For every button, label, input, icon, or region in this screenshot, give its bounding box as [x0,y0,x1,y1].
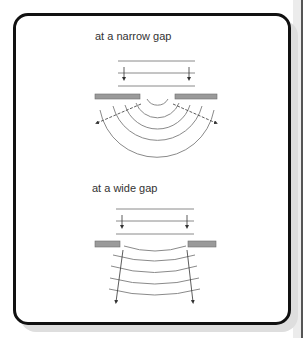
diffracted-wavefront [124,246,186,251]
diffracted-ray-right [173,104,216,123]
diffraction-diagram [0,0,305,338]
diffracted-wavefronts [100,99,214,157]
diffracted-ray-right [187,250,193,302]
barrier-left [95,241,120,247]
incident-wavefronts [116,209,194,234]
diffracted-wavefront [111,266,197,273]
barrier-right [188,241,216,247]
narrow-gap-panel [95,61,217,157]
diffracted-ray-left [116,250,123,302]
diffracted-wavefront [147,99,168,105]
diffracted-wavefront [113,106,202,140]
diffracted-wavefront [113,255,195,261]
barrier-left [95,94,140,99]
diffracted-wavefront [125,105,190,129]
wide-gap-panel [95,209,216,302]
diffracted-wavefront [110,278,199,284]
barrier-right [175,94,217,99]
incident-wavefronts [118,61,195,86]
diffracted-wavefront [109,289,200,295]
